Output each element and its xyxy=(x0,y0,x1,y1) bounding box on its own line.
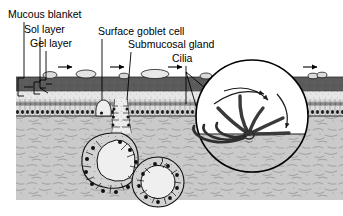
label-gel-layer: Gel layer xyxy=(30,37,73,49)
figure-canvas: Mucous blanket Sol layer Gel layer Surfa… xyxy=(0,0,343,216)
gland-acinus xyxy=(132,157,184,207)
respiratory-mucosa-diagram: Mucous blanket Sol layer Gel layer Surfa… xyxy=(0,0,343,216)
label-cilia: Cilia xyxy=(172,52,193,64)
label-mucous-blanket: Mucous blanket xyxy=(8,8,82,20)
label-sol-layer: Sol layer xyxy=(24,23,65,35)
label-surface-goblet-cell: Surface goblet cell xyxy=(98,25,184,37)
label-submucosal-gland: Submucosal gland xyxy=(128,38,215,50)
